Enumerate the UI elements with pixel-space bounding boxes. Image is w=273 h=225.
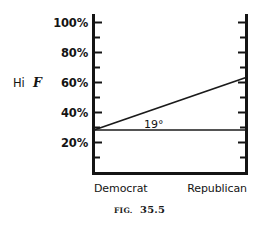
y-tick-label-60: 60% (61, 76, 89, 90)
caption-prefix: FIG. (114, 206, 133, 215)
angle-annotation-label: 19° (144, 118, 164, 131)
figure-container: 100% 80% 60% 40% 20% Hi F 19° Democrat R… (0, 0, 273, 225)
y-tick-label-80: 80% (61, 46, 89, 60)
series-trend-line (94, 78, 246, 131)
data-series-group (94, 78, 246, 131)
figure-caption: FIG. 35.5 (114, 204, 165, 215)
y-tick-label-40: 40% (61, 106, 89, 120)
chart-canvas: 100% 80% 60% 40% 20% Hi F 19° Democrat R… (0, 0, 273, 225)
y-tick-label-100: 100% (53, 16, 88, 30)
y-axis-title-word: Hi (13, 76, 25, 90)
axis-frame (92, 14, 248, 175)
y-axis-title: Hi F (13, 75, 43, 90)
x-label-republican: Republican (187, 182, 247, 195)
x-label-democrat: Democrat (94, 182, 148, 195)
y-axis-title-symbol: F (32, 75, 43, 90)
y-axis-tick-labels: 100% 80% 60% 40% 20% (53, 16, 88, 150)
caption-number: 35.5 (140, 204, 165, 215)
y-tick-label-20: 20% (61, 136, 89, 150)
x-axis-tick-labels: Democrat Republican (94, 182, 247, 195)
